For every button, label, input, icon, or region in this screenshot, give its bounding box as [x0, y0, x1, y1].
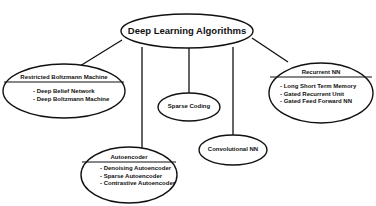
list-item: - Denoising Autoencoder — [100, 165, 175, 173]
convolutional-node-title: Convolutional NN — [199, 146, 267, 152]
root-node-label: Deep Learning Algorithms — [121, 25, 253, 36]
connector-recurrent — [252, 38, 288, 62]
list-item: - Sparse Autoencoder — [100, 173, 175, 181]
list-item: - Deep Boltzmann Machine — [33, 96, 109, 104]
list-item: - Deep Belief Network — [33, 88, 109, 96]
recurrent-node-items: - Long Short Term Memory - Gated Recurre… — [280, 83, 356, 106]
connector-rbm — [80, 40, 122, 66]
list-item: - Long Short Term Memory — [280, 83, 356, 91]
list-item: - Contrastive Autoencoder — [100, 180, 175, 188]
list-item: - Gated Recurrent Unit — [280, 91, 356, 99]
rbm-node-items: - Deep Belief Network - Deep Boltzmann M… — [33, 88, 109, 103]
sparse-coding-node-title: Sparse Coding — [158, 103, 220, 109]
autoencoder-node-items: - Denoising Autoencoder - Sparse Autoenc… — [100, 165, 175, 188]
rbm-node-title: Restricted Boltzmann Machine — [4, 74, 124, 80]
list-item: - Gated Feed Forward NN — [280, 98, 356, 106]
autoencoder-node-title: Autoencoder — [82, 154, 176, 160]
recurrent-node-title: Recurrent NN — [270, 69, 372, 75]
